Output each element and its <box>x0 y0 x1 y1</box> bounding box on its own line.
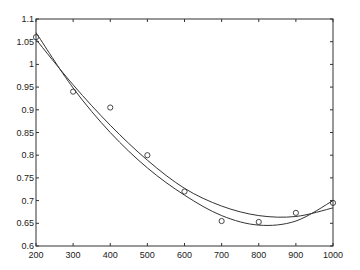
y-tick-label: 0.85 <box>16 128 34 138</box>
data-point-marker <box>182 189 187 194</box>
y-tick-label: 0.95 <box>16 82 34 92</box>
y-axis-ticks: 0.60.650.70.750.80.850.90.9511.051.1 <box>16 14 333 251</box>
x-tick-label: 300 <box>66 250 81 260</box>
y-tick-label: 0.9 <box>21 105 34 115</box>
chart: 2003004005006007008009001000 0.60.650.70… <box>0 0 360 270</box>
y-tick-label: 1.05 <box>16 37 34 47</box>
y-tick-label: 1 <box>29 59 34 69</box>
axes-frame <box>36 19 333 246</box>
y-tick-label: 0.7 <box>21 196 34 206</box>
y-tick-label: 1.1 <box>21 14 34 24</box>
y-tick-label: 0.75 <box>16 173 34 183</box>
data-point-marker <box>145 153 150 158</box>
y-tick-label: 0.65 <box>16 218 34 228</box>
x-tick-label: 700 <box>214 250 229 260</box>
data-point-marker <box>293 210 298 215</box>
plot-box <box>36 19 333 246</box>
y-tick-label: 0.6 <box>21 241 34 251</box>
data-point-marker <box>71 89 76 94</box>
x-tick-label: 500 <box>140 250 155 260</box>
x-tick-label: 600 <box>177 250 192 260</box>
x-tick-label: 800 <box>251 250 266 260</box>
x-tick-label: 900 <box>288 250 303 260</box>
data-point-marker <box>256 219 261 224</box>
fit-curves <box>36 33 333 226</box>
y-tick-label: 0.8 <box>21 150 34 160</box>
x-tick-label: 1000 <box>323 250 343 260</box>
data-markers <box>33 35 335 225</box>
curve-fit-quadratic <box>36 39 333 217</box>
x-tick-label: 400 <box>103 250 118 260</box>
data-point-marker <box>108 105 113 110</box>
data-point-marker <box>219 218 224 223</box>
x-axis-ticks: 2003004005006007008009001000 <box>28 19 343 260</box>
x-tick-label: 200 <box>28 250 43 260</box>
curve-fit-cubic <box>36 33 333 226</box>
